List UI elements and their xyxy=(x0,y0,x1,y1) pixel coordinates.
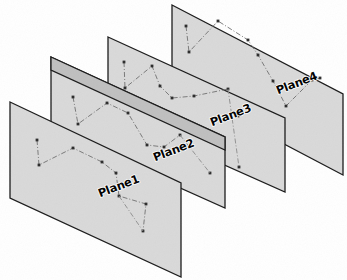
paper-texture-overlay xyxy=(0,0,347,280)
diagram-canvas: Plane4 Plane3 Plane2 Plane1 xyxy=(0,0,347,280)
planes-scene: Plane4 Plane3 Plane2 Plane1 xyxy=(0,0,347,280)
